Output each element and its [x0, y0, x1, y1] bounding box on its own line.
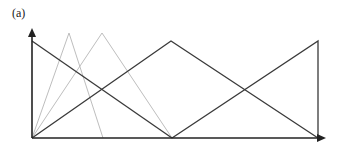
- bold-triangles: [32, 41, 318, 138]
- center-triangle: [32, 41, 318, 138]
- x-axis-arrow-icon: [317, 134, 326, 142]
- membership-function-diagram: [0, 0, 340, 155]
- thin-triangle-2: [32, 33, 172, 138]
- thin-triangles: [32, 33, 172, 138]
- y-axis-arrow-icon: [28, 28, 36, 37]
